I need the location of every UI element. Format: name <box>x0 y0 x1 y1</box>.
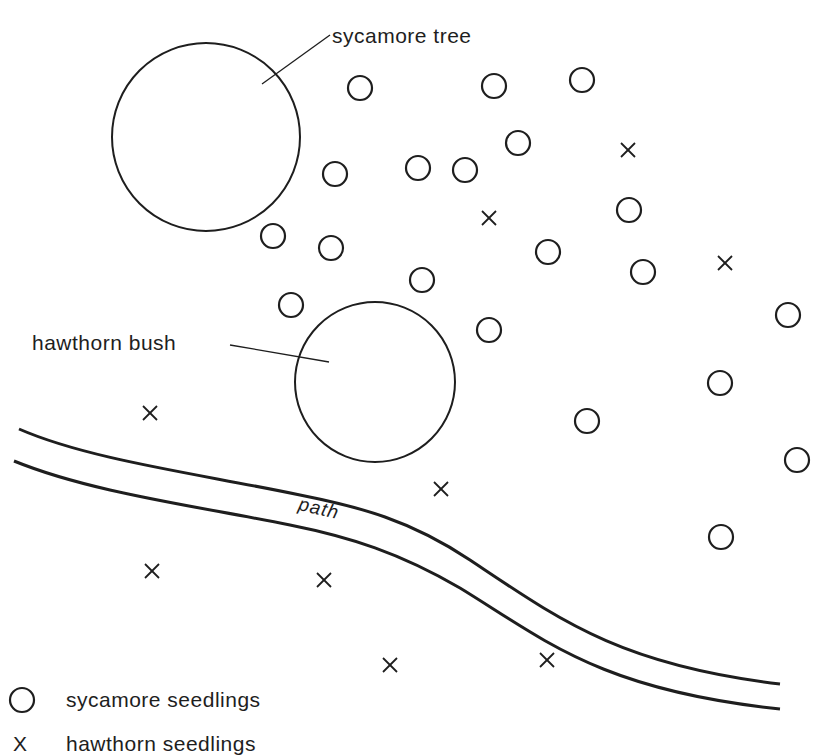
hawthorn-bush-label: hawthorn bush <box>32 331 176 354</box>
path-label: path <box>296 493 342 523</box>
sycamore-seedling-icon <box>631 260 655 284</box>
hawthorn-bush-canopy <box>295 302 455 462</box>
sycamore-seedling-icon <box>319 236 343 260</box>
seedling-distribution-diagram: sycamore tree hawthorn bush path sycamor… <box>0 0 823 756</box>
sycamore-seedling-icon <box>506 131 530 155</box>
sycamore-seedling-icon <box>477 318 501 342</box>
sycamore-seedling-icon <box>279 293 303 317</box>
hawthorn-seedlings-group <box>143 143 732 672</box>
hawthorn-seedling-icon <box>143 406 157 420</box>
hawthorn-bush-leader-line <box>230 345 329 362</box>
hawthorn-seedling-icon <box>317 573 331 587</box>
sycamore-seedling-icon <box>617 198 641 222</box>
sycamore-seedling-icon <box>776 303 800 327</box>
sycamore-seedling-icon <box>570 68 594 92</box>
sycamore-seedling-icon <box>482 74 506 98</box>
legend-sycamore-label: sycamore seedlings <box>66 688 261 711</box>
legend-hawthorn-label: hawthorn seedlings <box>66 732 256 755</box>
sycamore-tree-leader-line <box>262 35 330 84</box>
hawthorn-seedling-icon <box>434 482 448 496</box>
sycamore-seedling-icon <box>323 162 347 186</box>
hawthorn-seedling-icon <box>621 143 635 157</box>
sycamore-seedling-icon <box>708 371 732 395</box>
sycamore-seedling-icon <box>575 409 599 433</box>
sycamore-seedling-icon <box>261 224 285 248</box>
sycamore-seedling-icon <box>536 240 560 264</box>
hawthorn-seedling-icon <box>718 256 732 270</box>
sycamore-tree-label: sycamore tree <box>332 24 472 47</box>
hawthorn-seedling-icon <box>482 211 496 225</box>
hawthorn-seedling-icon <box>540 653 554 667</box>
legend-sycamore-symbol-icon <box>10 688 34 712</box>
sycamore-tree-canopy <box>112 43 300 231</box>
hawthorn-seedling-icon <box>383 658 397 672</box>
legend-hawthorn-symbol-icon: X <box>13 732 28 755</box>
sycamore-seedling-icon <box>410 268 434 292</box>
sycamore-seedling-icon <box>348 76 372 100</box>
sycamore-seedling-icon <box>453 158 477 182</box>
sycamore-seedling-icon <box>406 156 430 180</box>
legend: sycamore seedlings X hawthorn seedlings <box>10 688 261 755</box>
hawthorn-seedling-icon <box>145 564 159 578</box>
sycamore-seedling-icon <box>785 448 809 472</box>
sycamore-seedling-icon <box>709 525 733 549</box>
